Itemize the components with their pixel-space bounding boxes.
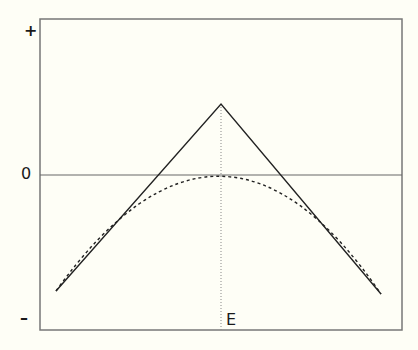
- chart-canvas: [0, 0, 418, 350]
- solid-tent-series: [56, 104, 381, 294]
- y-label-zero: 0: [21, 164, 31, 183]
- y-label-plus: +: [24, 21, 37, 40]
- x-label-e: E: [226, 310, 236, 329]
- y-label-minus: –: [20, 308, 28, 327]
